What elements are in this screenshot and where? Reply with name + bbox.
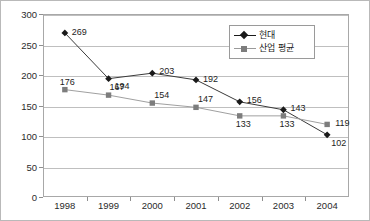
square-marker — [150, 100, 155, 105]
diamond-marker — [193, 76, 200, 83]
data-point-label: 154 — [154, 91, 169, 100]
data-point-label: 133 — [236, 120, 251, 129]
square-marker — [62, 87, 67, 92]
square-marker — [324, 122, 329, 127]
data-point-label: 119 — [335, 119, 349, 128]
data-point-label: 203 — [159, 67, 174, 76]
diamond-marker — [324, 131, 331, 138]
data-point-label: 269 — [72, 28, 87, 37]
diamond-marker — [236, 98, 243, 105]
legend-label: 현대 — [256, 30, 275, 41]
chart-legend: 현대 산업 평균 — [229, 25, 315, 59]
data-point-label: 147 — [198, 95, 213, 104]
legend-label: 산업 평균 — [256, 43, 294, 54]
square-marker — [281, 113, 286, 118]
data-point-label: 156 — [247, 96, 262, 105]
legend-item-hyundai[interactable]: 현대 — [234, 29, 310, 42]
square-marker — [106, 92, 111, 97]
data-point-label: 143 — [290, 104, 305, 113]
square-marker-icon — [234, 43, 256, 54]
diamond-marker — [280, 106, 287, 113]
data-point-label: 167 — [110, 83, 125, 92]
square-marker — [193, 105, 198, 110]
data-point-label: 192 — [203, 75, 218, 84]
diamond-marker — [149, 70, 156, 77]
legend-item-industry-average[interactable]: 산업 평균 — [234, 42, 310, 55]
square-marker — [237, 113, 242, 118]
diamond-marker-icon — [234, 30, 256, 41]
data-point-label: 102 — [331, 139, 346, 148]
data-point-label: 176 — [60, 78, 75, 87]
data-point-label: 133 — [279, 120, 294, 129]
chart-frame: 050100150200250300 199819992000200120022… — [0, 0, 370, 221]
